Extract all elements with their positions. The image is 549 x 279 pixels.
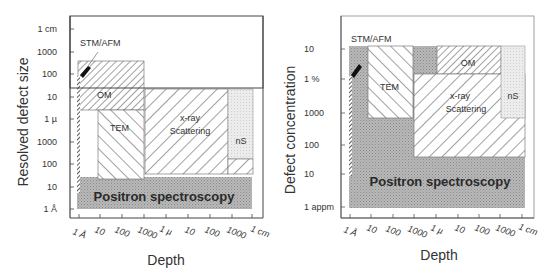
left-ytick-8: 1 Å: [43, 204, 57, 214]
right-xtick-6: 100: [473, 222, 491, 237]
left-y-axis-title: Resolved defect size: [15, 57, 31, 186]
left-xtick-7: 1000: [225, 224, 247, 240]
left-xtick-4: 1 µ: [158, 223, 173, 237]
right-ytick-1: 1 %: [304, 74, 320, 84]
left-ytick-3: 10: [47, 92, 57, 102]
right-label-stm: STM/AFM: [351, 34, 392, 44]
left-ytick-7: 10: [47, 182, 57, 192]
right-xtick-7: 1000: [494, 222, 516, 238]
right-ytick-0: 10: [304, 44, 314, 54]
right-xtick-1: 10: [365, 222, 378, 235]
right-region-ns: [501, 46, 525, 118]
left-label-positron: Positron spectroscopy: [94, 189, 236, 204]
left-label-om: OM: [97, 90, 112, 100]
left-xtick-6: 100: [203, 224, 221, 239]
right-ytick-4: 10: [304, 169, 314, 179]
right-label-tem: TEM: [380, 82, 399, 92]
left-xtick-5: 10: [183, 224, 196, 237]
left-xtick-0: 1 Å: [71, 226, 87, 240]
left-region-ns: [228, 89, 253, 159]
right-region-stm: [349, 76, 352, 176]
left-label-ns: nS: [235, 136, 246, 146]
right-chart: 10 1 % 1000 100 10 1 appm 1 Å 10 100 100…: [282, 16, 540, 263]
left-xtick-8: 1 cm: [249, 223, 271, 239]
left-ytick-6: 100: [42, 159, 57, 169]
left-region-xray-tail: [228, 159, 253, 174]
chart-canvas: 1 cm 1000 100 10 1 µ 1000 100 10 1 Å 1 Å…: [0, 0, 549, 279]
left-ytick-1: 1000: [37, 47, 57, 57]
left-label-xray-line1: x-ray: [180, 113, 200, 123]
left-x-axis-title: Depth: [147, 252, 184, 268]
right-label-xray-line2: Scattering: [446, 104, 487, 114]
left-label-tem: TEM: [110, 123, 129, 133]
left-ytick-5: 1000: [37, 137, 57, 147]
left-ytick-4: 1 µ: [44, 114, 57, 124]
right-xtick-0: 1 Å: [342, 224, 358, 238]
left-region-tem: [98, 110, 144, 179]
left-xtick-3: 1000: [136, 224, 158, 240]
right-ytick-2: 1000: [304, 108, 324, 118]
right-label-positron: Positron spectroscopy: [370, 174, 512, 189]
left-xtick-1: 10: [93, 224, 106, 237]
right-xtick-8: 1 cm: [517, 221, 539, 237]
left-ytick-0: 1 cm: [37, 24, 57, 34]
left-chart: 1 cm 1000 100 10 1 µ 1000 100 10 1 Å 1 Å…: [15, 16, 272, 268]
right-xtick-5: 10: [453, 222, 466, 235]
right-xtick-3: 1000: [406, 223, 428, 239]
left-ytick-2: 100: [42, 69, 57, 79]
right-label-ns: nS: [507, 91, 518, 101]
right-xtick-4: 1 µ: [429, 222, 444, 236]
right-label-om: OM: [461, 58, 476, 68]
left-label-xray-line2: Scattering: [170, 126, 211, 136]
left-region-stm: [77, 76, 80, 193]
left-label-stm: STM/AFM: [80, 38, 121, 48]
right-ytick-3: 100: [304, 140, 319, 150]
right-y-axis-title: Defect concentration: [282, 66, 298, 194]
left-xtick-2: 100: [113, 224, 131, 239]
right-x-axis-title: Depth: [420, 247, 457, 263]
right-ytick-5: 1 appm: [304, 202, 334, 212]
right-label-xray-line1: x-ray: [450, 91, 470, 101]
right-xtick-2: 100: [384, 223, 402, 238]
